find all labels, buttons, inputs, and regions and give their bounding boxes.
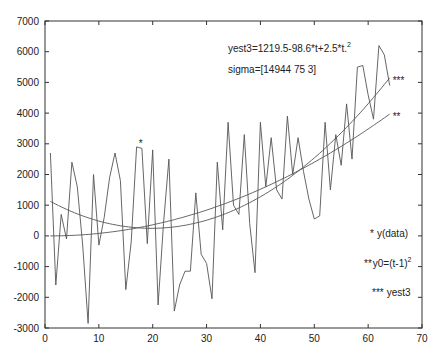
y-tick-label: -2000 bbox=[13, 292, 39, 303]
x-tick-label: 20 bbox=[147, 333, 159, 344]
y-tick-label: 1000 bbox=[17, 200, 40, 211]
y-tick-label: 5000 bbox=[17, 77, 40, 88]
y-tick-label: -3000 bbox=[13, 323, 39, 334]
marker-ydata: * bbox=[139, 138, 143, 149]
legend-item-ydata: *y(data) bbox=[370, 228, 408, 239]
x-tick-label: 40 bbox=[255, 333, 267, 344]
y-tick-label: 6000 bbox=[17, 46, 40, 57]
sigma-annotation: sigma=[14944 75 3] bbox=[228, 64, 316, 75]
y-tick-label: 7000 bbox=[17, 16, 40, 27]
y-tick-label: -1000 bbox=[13, 261, 39, 272]
x-tick-label: 70 bbox=[416, 333, 428, 344]
x-tick-label: 10 bbox=[93, 333, 105, 344]
legend-item-y0: **y0=(t-1)2 bbox=[364, 256, 412, 269]
marker-yest3: *** bbox=[393, 75, 405, 86]
equation-annotation: yest3=1219.5-98.6*t+2.5*t.2 bbox=[228, 41, 351, 54]
y-tick-label: 2000 bbox=[17, 169, 40, 180]
legend: *y(data) **y0=(t-1)2 ***yest3 bbox=[364, 228, 412, 298]
y-tick-label: 4000 bbox=[17, 108, 40, 119]
x-tick-label: 50 bbox=[309, 333, 321, 344]
x-tick-label: 60 bbox=[363, 333, 375, 344]
marker-y0: ** bbox=[393, 111, 401, 122]
series-ydata-line bbox=[50, 46, 389, 324]
y-tick-label: 3000 bbox=[17, 138, 40, 149]
line-chart: -3000-2000-10000100020003000400050006000… bbox=[0, 0, 440, 358]
x-tick-label: 0 bbox=[42, 333, 48, 344]
y-tick-label: 0 bbox=[33, 230, 39, 241]
x-tick-label: 30 bbox=[201, 333, 213, 344]
series-y0-curve bbox=[50, 114, 389, 236]
legend-item-yest3: ***yest3 bbox=[372, 287, 411, 298]
